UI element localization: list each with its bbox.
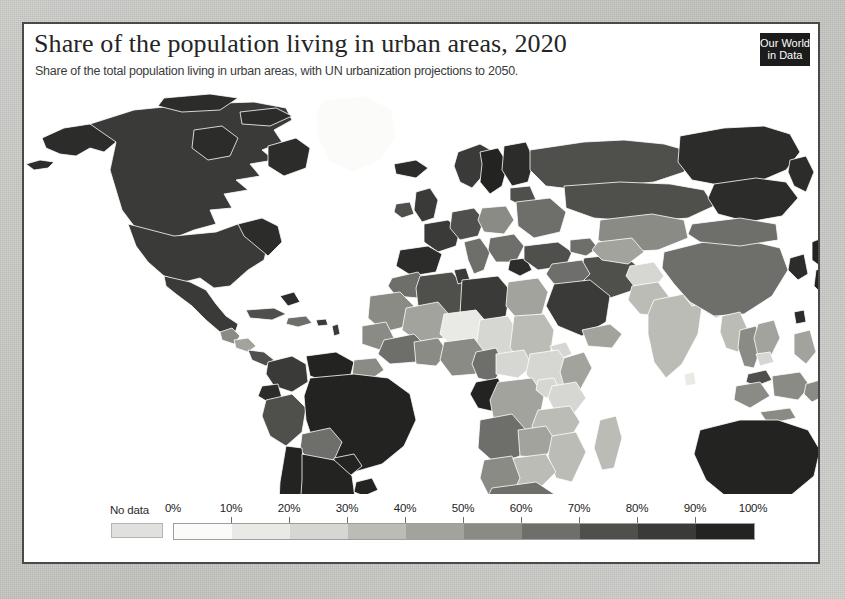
legend-no-data-swatch[interactable] xyxy=(111,523,163,538)
legend-tick-label-70: 70% xyxy=(568,502,590,514)
world-choropleth-map[interactable] xyxy=(24,90,818,494)
legend-tick-mark-20 xyxy=(289,517,290,523)
legend-tick-label-30: 30% xyxy=(336,502,358,514)
legend-tick-label-60: 60% xyxy=(510,502,532,514)
legend-tick-mark-10 xyxy=(231,517,232,523)
legend-bin-3[interactable] xyxy=(348,524,406,539)
legend-color-bar[interactable] xyxy=(173,523,755,540)
legend-bin-5[interactable] xyxy=(464,524,522,539)
map-svg xyxy=(24,90,818,494)
legend-scale[interactable]: 0%10%20%30%40%50%60%70%80%90%100% xyxy=(173,500,753,554)
page-title: Share of the population living in urban … xyxy=(34,29,567,59)
country-sri-lanka[interactable] xyxy=(684,372,696,386)
chart-subtitle: Share of the total population living in … xyxy=(35,64,518,78)
legend-tick-mark-50 xyxy=(463,517,464,523)
map-legend: No data 0%10%20%30%40%50%60%70%80%90%100… xyxy=(24,500,818,554)
legend-bin-8[interactable] xyxy=(638,524,696,539)
legend-bin-9[interactable] xyxy=(696,524,754,539)
legend-bin-1[interactable] xyxy=(232,524,290,539)
legend-tick-mark-80 xyxy=(637,517,638,523)
legend-tick-label-0: 0% xyxy=(165,502,181,514)
logo-line-1: Our World xyxy=(760,38,810,50)
legend-tick-label-20: 20% xyxy=(278,502,300,514)
legend-bin-6[interactable] xyxy=(522,524,580,539)
logo-line-2: in Data xyxy=(768,50,803,62)
legend-tick-label-90: 90% xyxy=(684,502,706,514)
our-world-in-data-logo[interactable]: Our World in Data xyxy=(760,33,810,66)
legend-tick-label-40: 40% xyxy=(394,502,416,514)
country-egypt[interactable] xyxy=(506,278,548,320)
legend-tick-label-10: 10% xyxy=(220,502,242,514)
legend-tick-mark-60 xyxy=(521,517,522,523)
legend-tick-label-80: 80% xyxy=(626,502,648,514)
legend-tick-label-50: 50% xyxy=(452,502,474,514)
legend-tick-mark-40 xyxy=(405,517,406,523)
legend-tick-label-100: 100% xyxy=(739,502,768,514)
legend-bin-7[interactable] xyxy=(580,524,638,539)
legend-tick-mark-90 xyxy=(695,517,696,523)
country-taiwan[interactable] xyxy=(794,310,806,324)
legend-bin-0[interactable] xyxy=(174,524,232,539)
legend-bin-2[interactable] xyxy=(290,524,348,539)
legend-bin-4[interactable] xyxy=(406,524,464,539)
country-puerto-rico[interactable] xyxy=(316,319,328,326)
legend-tick-mark-30 xyxy=(347,517,348,523)
legend-no-data-label: No data xyxy=(110,504,149,516)
chart-header: Share of the population living in urban … xyxy=(24,24,818,96)
legend-tick-mark-70 xyxy=(579,517,580,523)
chart-card: Share of the population living in urban … xyxy=(22,22,820,564)
country-australia[interactable] xyxy=(694,420,818,494)
